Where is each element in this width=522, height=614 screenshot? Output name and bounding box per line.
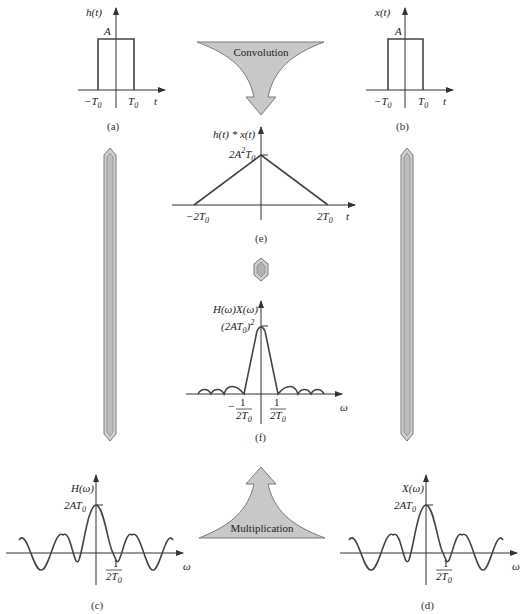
svg-text:1: 1 [443,557,449,569]
x-label: t [443,95,447,107]
x-label: ω [512,560,520,572]
tick-neg-inv-2t0: − 1 2T0 [228,396,252,424]
amplitude-label: A [394,25,402,37]
panel-e-convolution: h(t) * x(t) 2A2T0 −2T0 2T0 t (e) [172,127,355,245]
tick-neg-t0: −T0 [374,95,392,110]
bar-inner [404,153,410,436]
multiplication-label: Multiplication [231,522,294,534]
right-equivalence-bar [401,148,413,441]
panel-c-H-omega: H(ω) 2AT0 1 2T0 ω (c) [6,475,191,612]
peak-label: 2AT0 [394,499,416,514]
tick-neg-2t0: −2T0 [186,210,209,225]
svg-text:1: 1 [113,557,119,569]
y-label: h(t) [86,6,102,19]
bar-inner [107,153,113,436]
tick-2t0: 2T0 [317,210,333,225]
tick-neg-t0: −T0 [84,95,102,110]
y-label: x(t) [374,6,391,19]
caption-e: (e) [255,232,268,245]
caption-a: (a) [107,120,120,133]
panel-a-h-t: h(t) A −T0 T0 t (a) [78,6,165,133]
peak-label: 2A2T0 [229,146,255,163]
fourier-convolution-diagram: h(t) A −T0 T0 t (a) Convolution x(t) A −… [0,0,522,614]
x-label: t [154,95,158,107]
svg-text:1: 1 [274,396,280,408]
convolution-arrow: Convolution [197,42,324,115]
svg-text:−: − [228,400,234,412]
tick-inv-2t0: 1 2T0 [436,557,452,585]
x-label: ω [340,401,348,413]
peak-label: (2AT0)2 [221,318,254,335]
tick-inv-2t0: 1 2T0 [270,396,286,424]
y-label: H(ω)X(ω) [212,303,258,316]
caption-f: (f) [255,431,266,444]
caption-c: (c) [91,599,104,612]
x-label: t [346,210,350,222]
y-label: h(t) * x(t) [213,128,255,141]
svg-text:1: 1 [240,396,246,408]
tick-inv-2t0: 1 2T0 [106,557,122,585]
convolution-label: Convolution [233,46,289,58]
multiplication-arrow: Multiplication [199,467,325,538]
svg-text:2T0: 2T0 [106,570,122,585]
panel-f-product-spectrum: H(ω)X(ω) (2AT0)2 − 1 2T0 1 2T0 ω (f) [186,301,348,444]
peak-label: 2AT0 [64,499,86,514]
caption-b: (b) [396,120,409,133]
center-equivalence-symbol [254,258,268,281]
svg-text:2T0: 2T0 [436,570,452,585]
tick-t0: T0 [128,95,138,110]
left-equivalence-bar [104,148,116,441]
svg-text:2T0: 2T0 [270,409,286,424]
caption-d: (d) [421,599,434,612]
panel-d-X-omega: X(ω) 2AT0 1 2T0 ω (d) [340,475,520,612]
panel-b-x-t: x(t) A −T0 T0 t (b) [366,6,453,133]
amplitude-label: A [103,25,111,37]
x-label: ω [183,560,191,572]
svg-text:2T0: 2T0 [236,409,252,424]
tick-t0: T0 [418,95,428,110]
y-label: X(ω) [401,482,424,495]
y-label: H(ω) [70,482,94,495]
